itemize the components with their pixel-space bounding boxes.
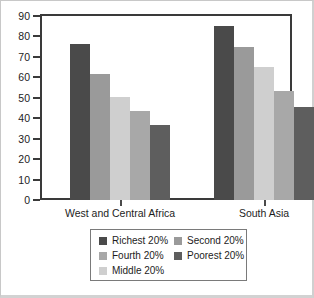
bar <box>234 47 254 200</box>
y-axis-tick-label: 40 <box>18 112 30 124</box>
legend-label: Second 20% <box>187 235 244 246</box>
legend-item[interactable]: Richest 20% <box>99 235 168 246</box>
x-axis-tick-label: South Asia <box>239 207 289 219</box>
y-axis-tick-mark <box>33 97 40 99</box>
y-axis-tick-label: 20 <box>18 153 30 165</box>
legend-items: Richest 20%Second 20%Fourth 20%Poorest 2… <box>91 230 246 280</box>
y-axis-tick-mark <box>33 199 40 201</box>
bar <box>294 107 314 200</box>
legend-item[interactable]: Poorest 20% <box>174 250 244 261</box>
y-axis-tick-mark <box>33 56 40 58</box>
legend-label: Poorest 20% <box>187 250 244 261</box>
bar-group <box>214 16 314 200</box>
chart-legend: Richest 20%Second 20%Fourth 20%Poorest 2… <box>90 229 247 281</box>
y-axis-tick-label: 60 <box>18 71 30 83</box>
y-axis-tick-mark <box>33 35 40 37</box>
y-axis-tick-label: 90 <box>18 10 30 22</box>
x-axis-tick-mark <box>264 200 266 206</box>
y-axis-tick-mark <box>33 15 40 17</box>
y-axis-tick-label: 0 <box>24 194 30 206</box>
x-axis-tick-label: West and Central Africa <box>65 207 175 219</box>
y-axis-tick-mark <box>33 76 40 78</box>
bar <box>70 44 90 200</box>
legend-label: Middle 20% <box>112 265 164 276</box>
bars-layer <box>42 16 290 200</box>
bar <box>254 67 274 200</box>
legend-item[interactable]: Fourth 20% <box>99 250 164 261</box>
legend-swatch-icon <box>99 237 107 245</box>
y-axis-tick-label: 50 <box>18 92 30 104</box>
bar <box>214 26 234 200</box>
y-axis: 0102030405060708090 <box>1 8 40 206</box>
bar <box>110 97 130 200</box>
y-axis-tick-mark <box>33 117 40 119</box>
x-axis-tick-mark <box>120 200 122 206</box>
legend-label: Fourth 20% <box>112 250 164 261</box>
legend-swatch-icon <box>99 267 107 275</box>
y-axis-tick-label: 70 <box>18 51 30 63</box>
y-axis-tick-mark <box>33 179 40 181</box>
bar-group <box>70 16 170 200</box>
legend-swatch-icon <box>99 252 107 260</box>
bar <box>150 125 170 200</box>
legend-item[interactable]: Second 20% <box>174 235 244 246</box>
legend-swatch-icon <box>174 252 182 260</box>
bar <box>274 91 294 200</box>
legend-label: Richest 20% <box>112 235 168 246</box>
y-axis-tick-mark <box>33 138 40 140</box>
bar <box>130 111 150 200</box>
bar <box>90 74 110 200</box>
y-axis-tick-label: 80 <box>18 30 30 42</box>
chart-figure: 0102030405060708090 Richest 20%Second 20… <box>0 0 314 298</box>
y-axis-tick-label: 10 <box>18 174 30 186</box>
legend-swatch-icon <box>174 237 182 245</box>
y-axis-tick-mark <box>33 158 40 160</box>
y-axis-tick-label: 30 <box>18 133 30 145</box>
legend-item[interactable]: Middle 20% <box>99 265 164 276</box>
